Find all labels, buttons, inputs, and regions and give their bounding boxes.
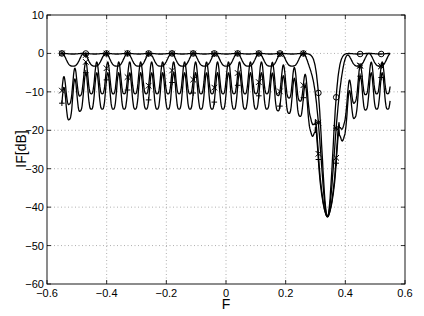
x-tick-label: −0.2	[155, 287, 177, 299]
y-tick-label: −10	[25, 86, 44, 98]
y-axis-label: IF[dB]	[13, 130, 29, 167]
x-tick-label: 0.4	[338, 287, 353, 299]
plot-curves	[62, 53, 390, 216]
y-tick-label: −40	[25, 201, 44, 213]
x-tick-label: 0.2	[278, 287, 293, 299]
plot-frame	[47, 15, 405, 284]
x-tick-label: 0.6	[397, 287, 412, 299]
x-axis-label: F	[222, 296, 231, 312]
grid-lines	[47, 15, 405, 284]
y-tick-label: 0	[38, 47, 44, 59]
y-tick-label: 10	[32, 9, 44, 21]
y-tick-label: −50	[25, 240, 44, 252]
y-tick-label: −60	[25, 278, 44, 290]
x-tick-label: −0.4	[96, 287, 118, 299]
chart: −0.6−0.4−0.200.20.40.6 −60−50−40−30−20−1…	[0, 0, 424, 316]
x-axis-ticks: −0.6−0.4−0.200.20.40.6	[36, 15, 413, 299]
